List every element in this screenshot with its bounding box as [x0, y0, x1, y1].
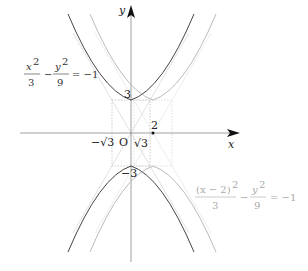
svg-text:x: x	[26, 61, 32, 72]
tick-two: 2	[151, 119, 158, 132]
svg-text:9: 9	[57, 77, 63, 88]
x-axis-label: x	[228, 138, 235, 151]
tick-neg-sqrt3: −√3	[91, 136, 114, 149]
tick-y-top: 3	[124, 88, 131, 101]
hyperbola-diagram: y x O −√3 √3 2 3 −3 x 2 3 − y 2 9 = −1 (…	[0, 0, 308, 271]
svg-text:y: y	[251, 184, 258, 195]
equation-original: x 2 3 − y 2 9 = −1	[24, 56, 98, 88]
svg-text:y: y	[54, 61, 61, 72]
svg-text:= −1: = −1	[72, 69, 98, 80]
origin-label: O	[119, 136, 128, 149]
svg-text:2: 2	[33, 56, 39, 67]
svg-text:2: 2	[259, 179, 265, 190]
svg-text:2: 2	[232, 179, 238, 190]
axes	[20, 5, 240, 262]
svg-text:9: 9	[254, 200, 260, 211]
tick-y-bottom: −3	[121, 167, 137, 180]
y-axis-label: y	[118, 4, 126, 17]
svg-text:(x − 2): (x − 2)	[196, 184, 231, 195]
svg-text:3: 3	[28, 77, 34, 88]
svg-text:2: 2	[62, 56, 68, 67]
svg-text:−: −	[240, 192, 248, 203]
svg-text:= −1: = −1	[270, 192, 296, 203]
tick-sqrt3: √3	[134, 137, 148, 150]
equation-shifted: (x − 2) 2 3 − y 2 9 = −1	[195, 179, 296, 211]
svg-text:3: 3	[212, 200, 218, 211]
svg-text:−: −	[44, 69, 52, 80]
